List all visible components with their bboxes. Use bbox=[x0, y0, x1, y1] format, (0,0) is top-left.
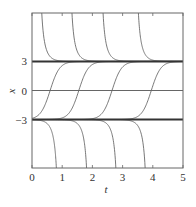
equilibrium-lines bbox=[32, 61, 183, 119]
solution-curve bbox=[32, 120, 60, 207]
x-tick-label: 3 bbox=[120, 171, 126, 183]
x-tick-label: 1 bbox=[59, 171, 65, 183]
y-axis-label: x bbox=[5, 88, 17, 94]
x-tick-label: 2 bbox=[90, 171, 96, 183]
y-tick-label: 0 bbox=[22, 85, 28, 97]
x-tick-label: 4 bbox=[150, 171, 156, 183]
solution-curve bbox=[38, 0, 183, 61]
solution-curve bbox=[135, 0, 183, 61]
solution-curve bbox=[32, 61, 183, 118]
axis-ticks: 012345−303 bbox=[15, 13, 186, 183]
y-tick-label: −3 bbox=[15, 114, 27, 126]
solution-curve bbox=[68, 0, 183, 61]
x-tick-label: 0 bbox=[29, 171, 35, 183]
y-tick-label: 3 bbox=[22, 55, 28, 67]
x-axis-label: t bbox=[104, 183, 108, 195]
solution-curve bbox=[32, 120, 90, 207]
phase-line-plot: 012345−303 t x bbox=[0, 0, 196, 207]
x-tick-label: 5 bbox=[180, 171, 186, 183]
solution-curves bbox=[32, 0, 183, 207]
solution-curve bbox=[100, 0, 184, 61]
solution-curve bbox=[32, 120, 149, 207]
